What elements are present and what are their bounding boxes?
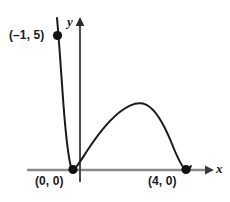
point-label-origin: (0, 0) — [35, 174, 64, 188]
cubic-curve — [57, 18, 191, 171]
point-marker-origin — [68, 165, 77, 174]
point-label-4-0: (4, 0) — [148, 174, 177, 188]
point-marker-neg1-5 — [53, 31, 62, 40]
y-axis-label: y — [67, 14, 73, 30]
point-marker-4-0 — [181, 165, 190, 174]
x-axis-label: x — [216, 161, 223, 177]
point-label-neg1-5: (–1, 5) — [9, 28, 44, 42]
graph-figure: (–1, 5) (0, 0) (4, 0) y x — [0, 0, 230, 202]
x-axis-arrowhead — [205, 165, 214, 174]
y-axis-arrowhead — [76, 17, 85, 26]
